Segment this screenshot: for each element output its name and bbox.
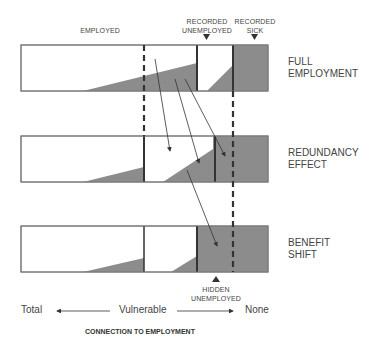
label-recorded-unemployed: RECORDED UNEMPLOYED xyxy=(178,17,236,35)
label-hidden-unemployed: HIDDEN UNEMPLOYED xyxy=(187,285,245,303)
axis-label-total: Total xyxy=(21,304,42,315)
row-label-benefit-shift: BENEFIT SHIFT xyxy=(288,237,330,261)
label-recorded-sick: RECORDED SICK xyxy=(232,17,278,35)
label-employed: EMPLOYED xyxy=(70,26,130,35)
row-label-redundancy-effect: REDUNDANCY EFFECT xyxy=(288,147,359,171)
triangle-hidden-unemployed-icon xyxy=(212,276,220,282)
bar-benefit-shift xyxy=(21,226,268,272)
axis-title: CONNECTION TO EMPLOYMENT xyxy=(85,328,195,335)
axis-label-none: None xyxy=(245,304,269,315)
bar-redundancy-effect xyxy=(21,136,268,182)
row-label-full-employment: FULL EMPLOYMENT xyxy=(288,56,358,80)
axis-label-vulnerable: Vulnerable xyxy=(119,304,166,315)
